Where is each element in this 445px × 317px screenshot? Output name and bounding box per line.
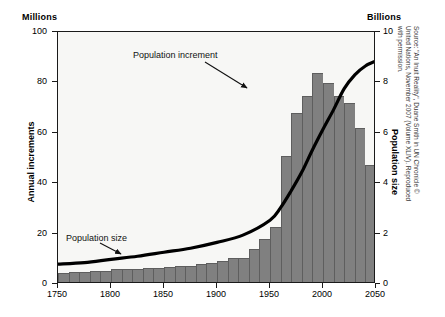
x-axis-tick bbox=[322, 283, 323, 288]
bar bbox=[355, 128, 366, 282]
y-axis-tick-label: 40 bbox=[7, 177, 47, 187]
y-axis-tick-label: 60 bbox=[7, 127, 47, 137]
bar bbox=[175, 266, 186, 282]
x-axis-tick-label: 2000 bbox=[302, 289, 342, 299]
bar bbox=[143, 268, 154, 282]
y-axis-tick-label: 100 bbox=[7, 26, 47, 36]
x-axis-tick-label: 1850 bbox=[143, 289, 183, 299]
bar bbox=[281, 156, 292, 282]
y-axis-tick bbox=[52, 233, 57, 234]
y-axis-tick bbox=[52, 81, 57, 82]
bar bbox=[249, 249, 260, 282]
y2-axis-tick bbox=[375, 233, 380, 234]
bar bbox=[90, 271, 101, 282]
y2-axis-tick bbox=[375, 81, 380, 82]
bar bbox=[238, 258, 249, 282]
x-axis-tick bbox=[216, 283, 217, 288]
bar bbox=[270, 227, 281, 282]
x-axis-tick-label: 1750 bbox=[37, 289, 77, 299]
bar bbox=[196, 264, 207, 282]
y-axis-tick bbox=[52, 182, 57, 183]
x-axis-tick bbox=[375, 283, 376, 288]
population-chart-figure: Millions Billions Annual increments Popu… bbox=[0, 0, 445, 317]
y2-axis-tick-label: 10 bbox=[383, 26, 413, 36]
plot-area bbox=[57, 31, 375, 283]
bar bbox=[185, 266, 196, 282]
right-axis-unit-caption: Billions bbox=[367, 12, 401, 22]
bar bbox=[122, 269, 133, 282]
bar bbox=[323, 83, 334, 282]
y2-axis-tick bbox=[375, 31, 380, 32]
x-axis-tick-label: 2050 bbox=[355, 289, 395, 299]
x-axis-tick bbox=[110, 283, 111, 288]
bar bbox=[334, 96, 345, 282]
bar bbox=[111, 269, 122, 282]
bar bbox=[217, 261, 228, 282]
x-axis-tick bbox=[269, 283, 270, 288]
bar bbox=[291, 113, 302, 282]
bar bbox=[228, 258, 239, 282]
x-axis-tick-label: 1800 bbox=[90, 289, 130, 299]
bar bbox=[206, 263, 217, 282]
y-axis-tick-label: 0 bbox=[7, 278, 47, 288]
bar bbox=[365, 165, 375, 282]
bar bbox=[164, 267, 175, 282]
y-axis-tick-label: 20 bbox=[7, 228, 47, 238]
bar bbox=[259, 239, 270, 282]
bar bbox=[100, 271, 111, 282]
y2-axis-tick-label: 4 bbox=[383, 177, 413, 187]
y-axis-tick-label: 80 bbox=[7, 76, 47, 86]
left-axis-unit-caption: Millions bbox=[22, 12, 57, 22]
x-axis-tick-label: 1950 bbox=[249, 289, 289, 299]
x-axis-tick bbox=[57, 283, 58, 288]
y2-axis-tick bbox=[375, 132, 380, 133]
bar bbox=[69, 272, 80, 282]
bar bbox=[302, 96, 313, 282]
x-axis-tick-label: 1900 bbox=[196, 289, 236, 299]
annotation-population-increment: Population increment bbox=[133, 50, 218, 60]
x-axis-tick bbox=[163, 283, 164, 288]
y2-axis-tick-label: 8 bbox=[383, 76, 413, 86]
y2-axis-tick-label: 0 bbox=[383, 278, 413, 288]
annotation-population-size: Population size bbox=[66, 233, 127, 243]
bar bbox=[312, 73, 323, 282]
y2-axis-tick-label: 2 bbox=[383, 228, 413, 238]
bar bbox=[132, 269, 143, 282]
left-axis-title: Annual increments bbox=[26, 92, 36, 232]
y-axis-tick bbox=[52, 31, 57, 32]
y2-axis-tick-label: 6 bbox=[383, 127, 413, 137]
y-axis-tick bbox=[52, 132, 57, 133]
bar bbox=[344, 103, 355, 282]
bar bbox=[79, 272, 90, 282]
bar bbox=[153, 268, 164, 282]
y2-axis-tick bbox=[375, 182, 380, 183]
bar bbox=[58, 273, 69, 282]
